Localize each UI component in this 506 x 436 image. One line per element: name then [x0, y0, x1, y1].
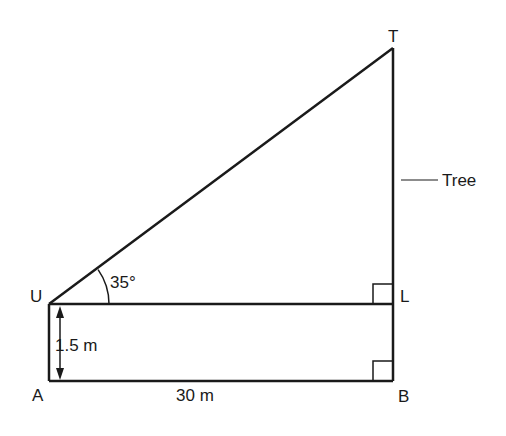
- angle-label: 35°: [110, 273, 136, 292]
- arrow-up-icon: [56, 306, 64, 318]
- label-b: B: [398, 387, 409, 406]
- height-label: 1.5 m: [55, 336, 98, 355]
- tree-label: Tree: [442, 171, 476, 190]
- label-t: T: [388, 27, 398, 46]
- angle-arc: [98, 270, 109, 304]
- right-angle-marker-l: [373, 284, 393, 304]
- right-angle-marker-b: [373, 361, 393, 381]
- label-a: A: [32, 386, 44, 405]
- line-of-sight: [49, 48, 393, 304]
- trigonometry-diagram: T U L A B 35° 1.5 m 30 m Tree: [0, 0, 506, 436]
- label-u: U: [30, 287, 42, 306]
- distance-label: 30 m: [176, 386, 214, 405]
- arrow-down-icon: [56, 368, 64, 380]
- label-l: L: [400, 287, 409, 306]
